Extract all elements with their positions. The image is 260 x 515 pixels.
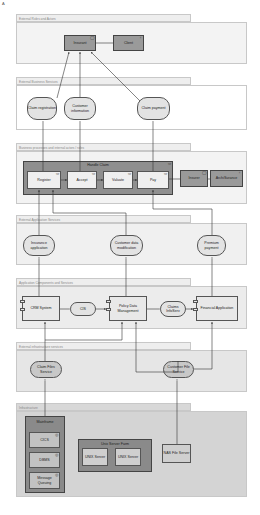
label: Accept (77, 178, 88, 182)
label: Insurer (188, 176, 199, 180)
label: CRM System (30, 306, 51, 310)
actor-icon: ♀ (238, 171, 241, 175)
app-service-cis[interactable]: CIS (70, 302, 96, 316)
process-icon: ⇨ (56, 172, 59, 176)
device-unix-server-1[interactable]: UNIX Server (82, 448, 108, 466)
label: Pay (150, 178, 156, 182)
actor-client[interactable]: Client ♀ (113, 35, 144, 51)
label: Claim Files Service (31, 365, 61, 374)
process-icon: ⇨ (164, 172, 167, 176)
label: Premium payment (198, 241, 225, 250)
label: Policy Data Management (110, 304, 146, 313)
process-pay[interactable]: Pay ⇨ (137, 171, 169, 189)
layer-tab-external-application-services: External Application Services (16, 215, 191, 223)
component-icon (193, 308, 198, 311)
role-insurant[interactable]: Insurant ◯ (64, 35, 96, 51)
infra-service-claim-files-service[interactable]: Claim Files Service (30, 361, 62, 378)
role-icon: ◯ (90, 36, 94, 40)
device-unix-server-2[interactable]: UNIX Server (115, 448, 141, 466)
actor-client-label: Client (124, 41, 133, 45)
app-service-insurance-application[interactable]: Insurance application (23, 235, 55, 256)
actor-icon: ♀ (139, 36, 142, 40)
app-service-customer-data-modification[interactable]: Customer data modification (110, 235, 143, 256)
layer-tab-external-business-services: External Business Services (16, 77, 191, 85)
process-register[interactable]: Register ⇨ (27, 171, 61, 189)
layer-tab-business-processes: Business processes and internal actors /… (16, 143, 191, 151)
label: Claim registration (28, 106, 56, 110)
role-icon: ◯ (202, 171, 206, 175)
label: Register (37, 178, 50, 182)
label: Customer File Service (164, 365, 193, 374)
label: Claim payment (142, 106, 166, 110)
app-service-claims-infoserv[interactable]: Claims InfoServ (160, 301, 186, 317)
system-software-icon: ◎ (55, 433, 58, 437)
business-service-claim-registration[interactable]: Claim registration (27, 97, 57, 120)
component-icon (20, 308, 25, 311)
layer-tab-external-infrastructure-services: External infrastructure services (16, 342, 191, 350)
system-software-icon: ◎ (55, 453, 58, 457)
system-software-cics[interactable]: CICS ◎ (29, 432, 60, 448)
business-service-customer-information[interactable]: Customer information (64, 97, 96, 120)
label: ArchiSurance (216, 176, 238, 180)
label: CICS (40, 438, 49, 442)
actor-archisurance[interactable]: ArchiSurance ♀ (210, 170, 243, 187)
label: Financial Application (201, 306, 234, 310)
process-accept[interactable]: Accept ⇨ (67, 171, 97, 189)
label: Customer information (65, 104, 95, 113)
corner-mark: A (2, 1, 5, 6)
infra-service-customer-file-service[interactable]: Customer File Service (163, 361, 194, 378)
label: Customer data modification (111, 241, 142, 250)
process-icon: ⇨ (168, 162, 171, 166)
system-software-icon: ◎ (55, 473, 58, 477)
app-service-premium-payment[interactable]: Premium payment (197, 235, 226, 256)
component-icon (106, 300, 111, 303)
node-unix-server-farm-label: Unix Server Farm (79, 442, 151, 446)
app-component-financial-application[interactable]: Financial Application (196, 296, 238, 321)
system-software-dbms[interactable]: DBMS ◎ (29, 452, 60, 468)
app-component-policy-data-management[interactable]: Policy Data Management (109, 296, 147, 321)
label: DBMS (39, 458, 49, 462)
label: UNIX Server (85, 455, 105, 459)
layer-tab-application-components: Application Components and Services (16, 278, 191, 286)
label: Claims InfoServ (161, 305, 185, 314)
label: Insurance application (24, 241, 54, 250)
process-handle-claim-label: Handle Claim (24, 163, 172, 167)
node-mainframe-label: Mainframe (26, 420, 64, 424)
label: UNIX Server (118, 455, 138, 459)
system-software-message-queuing[interactable]: Message Queuing ◎ (29, 472, 60, 489)
layer-tab-external-roles: External Roles and Actors (16, 14, 191, 22)
layer-tab-infrastructure: Infrastructure (16, 403, 191, 411)
process-valuate[interactable]: Valuate ⇨ (103, 171, 133, 189)
process-icon: ⇨ (92, 172, 95, 176)
label: CIS (80, 307, 86, 311)
app-component-crm-system[interactable]: CRM System (22, 296, 60, 321)
component-icon (193, 300, 198, 303)
component-icon (106, 308, 111, 311)
label: Message Queuing (30, 476, 59, 485)
role-insurer[interactable]: Insurer ◯ (180, 170, 208, 187)
component-icon (20, 300, 25, 303)
device-nas-file-server[interactable]: NAS File Server (162, 444, 191, 463)
label: Valuate (112, 178, 124, 182)
role-insurant-label: Insurant (74, 41, 87, 45)
process-icon: ⇨ (128, 172, 131, 176)
label: NAS File Server (164, 451, 190, 455)
business-service-claim-payment[interactable]: Claim payment (137, 97, 170, 120)
